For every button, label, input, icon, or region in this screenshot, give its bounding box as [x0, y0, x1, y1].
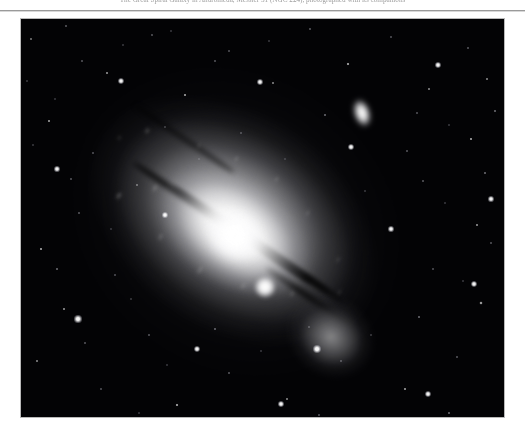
document-page: The Great Spiral Galaxy in Andromeda, Me…: [0, 0, 525, 424]
dust-lane-2: [170, 183, 333, 297]
dust-lane-outer: [133, 103, 236, 176]
m31-halo: [21, 19, 475, 417]
dust-lane-4: [264, 265, 355, 330]
m31-disk: [25, 20, 440, 417]
m31-southern-arm: [266, 271, 396, 402]
figure-caption: The Great Spiral Galaxy in Andromeda, Me…: [0, 0, 525, 6]
figure-caption-text: The Great Spiral Galaxy in Andromeda, Me…: [0, 0, 525, 6]
dust-lane-1: [130, 158, 314, 287]
m31-nucleus: [196, 198, 273, 274]
m31-spiral-arm-texture: [25, 20, 440, 417]
astronomical-photograph: [21, 19, 504, 417]
dust-lane-3: [217, 215, 346, 306]
horizontal-rule-shadow: [0, 11, 525, 12]
m31-galaxy: [21, 19, 504, 417]
m31-bulge: [128, 130, 343, 334]
figure-image-frame: [20, 18, 505, 418]
